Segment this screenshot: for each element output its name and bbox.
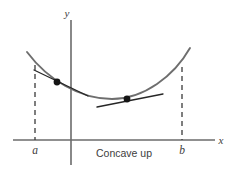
left-tangent-line — [34, 70, 88, 96]
concave-up-curve — [27, 48, 190, 99]
x-axis-label: x — [218, 134, 224, 146]
right-tangency-point — [124, 96, 131, 103]
endpoint-label-a: a — [32, 144, 38, 156]
concave-up-figure: y x a b Concave up — [0, 0, 234, 179]
left-tangency-point — [54, 79, 61, 86]
endpoint-label-b: b — [179, 144, 185, 156]
y-axis-label: y — [64, 7, 70, 19]
figure-canvas: y x a b Concave up — [0, 0, 234, 179]
figure-caption: Concave up — [96, 147, 152, 159]
